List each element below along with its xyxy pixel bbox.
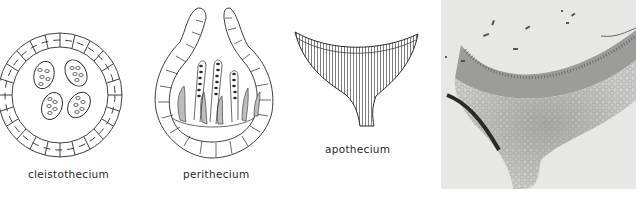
perithecium-drawing bbox=[150, 0, 290, 160]
micrograph-texture bbox=[441, 0, 636, 189]
perithecium-label: perithecium bbox=[183, 168, 249, 180]
cleistothecium-label: cleistothecium bbox=[28, 168, 109, 180]
apothecium-panel: apothecium bbox=[280, 0, 440, 199]
apothecium-drawing bbox=[280, 0, 440, 140]
cleistothecium-panel: cleistothecium bbox=[0, 0, 150, 199]
perithecium-panel: perithecium bbox=[150, 0, 290, 199]
apothecium-micrograph bbox=[441, 0, 636, 189]
cleistothecium-drawing bbox=[0, 0, 150, 160]
apothecium-label: apothecium bbox=[325, 143, 390, 155]
